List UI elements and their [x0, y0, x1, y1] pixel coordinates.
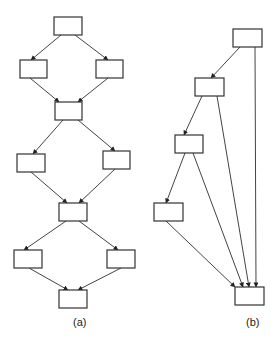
- edge-arrow: [78, 78, 108, 102]
- edge-arrow: [24, 221, 66, 250]
- edge-arrow: [193, 153, 243, 287]
- edge-arrow: [184, 96, 202, 135]
- caption-label: (a): [73, 316, 86, 328]
- edge-arrow: [79, 221, 118, 250]
- caption-label: (b): [246, 316, 259, 328]
- diagram-b: (b): [154, 29, 264, 328]
- edge-arrow: [31, 35, 61, 60]
- edge-arrow: [166, 153, 185, 203]
- node-box: [107, 250, 135, 268]
- edge-arrow: [31, 172, 67, 203]
- node-box: [59, 290, 87, 308]
- node-box: [175, 135, 203, 153]
- node-box: [54, 17, 82, 35]
- edge-arrow: [79, 169, 115, 203]
- node-box: [103, 151, 130, 169]
- node-box: [154, 203, 183, 221]
- edge-arrow: [166, 221, 235, 287]
- diagram-a: (a): [14, 17, 135, 328]
- edge-arrow: [33, 120, 63, 154]
- node-box: [14, 250, 42, 268]
- edge-arrow: [29, 268, 68, 290]
- edge-arrow: [30, 78, 59, 102]
- node-box: [55, 102, 82, 120]
- edge-arrow: [255, 47, 256, 287]
- node-box: [20, 60, 47, 78]
- node-box: [235, 287, 264, 305]
- node-box: [96, 60, 123, 78]
- edge-arrow: [211, 47, 240, 78]
- edge-arrow: [217, 96, 249, 287]
- node-box: [233, 29, 262, 47]
- node-box: [59, 203, 87, 221]
- edge-arrow: [75, 35, 108, 60]
- edge-arrow: [78, 268, 121, 290]
- diagram-canvas: (a) (b): [0, 0, 280, 344]
- edge-arrow: [78, 120, 115, 151]
- node-box: [195, 78, 224, 96]
- node-box: [17, 154, 45, 172]
